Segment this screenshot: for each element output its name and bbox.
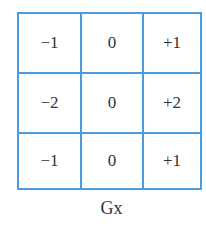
kernel-caption: Gx (0, 198, 206, 219)
kernel-matrix: −1 0 +1 −2 0 +2 −1 0 +1 (17, 12, 202, 190)
kernel-cell: +2 (144, 74, 200, 134)
kernel-cell: 0 (82, 74, 144, 134)
kernel-cell: +1 (144, 134, 200, 188)
kernel-cell: 0 (82, 14, 144, 74)
kernel-cell: +1 (144, 14, 200, 74)
kernel-cell: −1 (19, 14, 82, 74)
kernel-cell: −1 (19, 134, 82, 188)
kernel-cell: −2 (19, 74, 82, 134)
kernel-cell: 0 (82, 134, 144, 188)
